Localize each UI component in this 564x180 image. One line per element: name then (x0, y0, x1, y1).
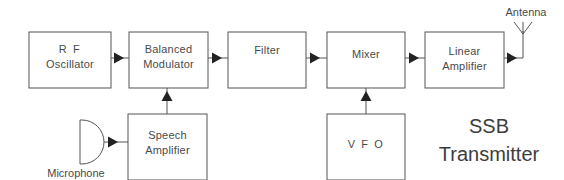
block-speech-amplifier: Speech Amplifier (128, 114, 207, 180)
block-linear-amplifier-label-line1: Linear (449, 45, 481, 57)
block-speech-amplifier-label-line2: Amplifier (145, 144, 190, 156)
antenna-prong-left (514, 22, 523, 34)
block-mixer-box (327, 32, 405, 88)
block-balanced-modulator: Balanced Modulator (129, 32, 208, 88)
block-balanced-modulator-label-line1: Balanced (145, 43, 192, 55)
arrowhead-linamp-to-antenna (507, 53, 517, 64)
arrowhead-speechamp-to-balmod (162, 91, 173, 101)
arrowhead-rfosc-to-balmod (114, 53, 124, 64)
block-rf-oscillator: R F Oscillator (29, 32, 111, 88)
block-balanced-modulator-label-line2: Modulator (143, 58, 194, 70)
microphone-wire-group (103, 137, 128, 148)
diagram-title-line2: Transmitter (439, 143, 540, 165)
block-mixer-label-line1: Mixer (352, 48, 380, 60)
block-rf-oscillator-label-line2: Oscillator (46, 58, 94, 70)
block-vfo-label-line1: V F O (348, 138, 385, 150)
diagram-canvas: Antenna Microphone R F Oscillator Balanc… (0, 0, 564, 180)
antenna-prong-right (523, 22, 532, 34)
microphone-capsule-shape (80, 120, 104, 164)
block-speech-amplifier-label-line1: Speech (148, 129, 187, 141)
microphone-label: Microphone (47, 167, 104, 179)
arrowhead-vfo-to-mixer (361, 91, 372, 101)
antenna-symbol (514, 22, 532, 58)
block-mixer: Mixer (327, 32, 405, 88)
block-linear-amplifier: Linear Amplifier (425, 32, 504, 88)
block-rf-oscillator-label-line1: R F (59, 43, 82, 55)
block-filter-box (228, 32, 306, 88)
block-filter: Filter (228, 32, 306, 88)
block-linear-amplifier-label-line2: Amplifier (442, 60, 487, 72)
arrowhead-mixer-to-linamp (409, 53, 419, 64)
diagram-title: SSB Transmitter (439, 115, 540, 165)
antenna-label: Antenna (506, 6, 548, 18)
block-vfo: V F O (327, 114, 405, 180)
arrowhead-filter-to-mixer (310, 53, 320, 64)
diagram-title-line1: SSB (469, 115, 509, 137)
arrowhead-balmod-to-filter (212, 53, 222, 64)
block-filter-label-line1: Filter (254, 44, 280, 56)
arrowhead-mic-to-speechamp (108, 137, 118, 148)
ssb-transmitter-block-diagram: Antenna Microphone R F Oscillator Balanc… (0, 0, 564, 180)
microphone-symbol (80, 120, 104, 164)
feed-wires (162, 88, 372, 114)
